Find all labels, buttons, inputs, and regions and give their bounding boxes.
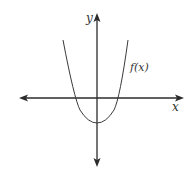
graph-canvas: y x f(x) — [0, 0, 191, 178]
x-axis-label: x — [172, 100, 179, 114]
curve-label: f(x) — [129, 61, 149, 74]
y-axis-label: y — [85, 11, 93, 25]
parabola-curve — [63, 40, 128, 123]
parabola-graph: y x f(x) — [0, 0, 191, 178]
